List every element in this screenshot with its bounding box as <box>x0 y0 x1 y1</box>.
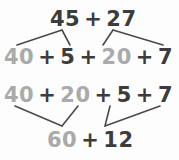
plus-operator: + <box>132 45 158 69</box>
connector-45-to-40 <box>17 30 62 45</box>
tens-20: 20 <box>60 83 90 107</box>
row-regrouped-expression: 40 + 20 + 5 + 7 <box>4 83 173 107</box>
row-original-expression: 45 + 27 <box>50 7 137 31</box>
ones-7: 7 <box>158 45 173 69</box>
row-place-value-split: 40 + 5 + 20 + 7 <box>4 45 173 69</box>
row-partial-sums: 60 + 12 <box>47 128 134 152</box>
connector-40-to-60 <box>15 106 62 126</box>
plus-operator: + <box>75 45 101 69</box>
tens-20: 20 <box>102 45 132 69</box>
connector-7-to-12 <box>105 106 160 126</box>
plus-operator: + <box>34 45 60 69</box>
plus-operator: + <box>80 7 106 31</box>
addend-45: 45 <box>50 7 80 31</box>
ones-5: 5 <box>117 83 132 107</box>
addend-27: 27 <box>106 7 136 31</box>
ones-5: 5 <box>60 45 75 69</box>
connector-45-to-5 <box>62 30 70 45</box>
math-decomposition-diagram: 45 + 27 40 + 5 + 20 + 7 40 + 20 + 5 + 7 … <box>0 0 179 160</box>
connector-27-to-20 <box>103 30 113 45</box>
tens-40: 40 <box>4 45 34 69</box>
connector-20-to-60 <box>62 106 78 126</box>
plus-operator: + <box>91 83 117 107</box>
plus-operator: + <box>34 83 60 107</box>
connector-27-to-7 <box>113 30 163 45</box>
plus-operator: + <box>77 128 103 152</box>
tens-40: 40 <box>4 83 34 107</box>
connector-5-to-12 <box>105 106 110 126</box>
ones-7: 7 <box>158 83 173 107</box>
plus-operator: + <box>132 83 158 107</box>
ones-sum-12: 12 <box>103 128 133 152</box>
tens-sum-60: 60 <box>47 128 77 152</box>
